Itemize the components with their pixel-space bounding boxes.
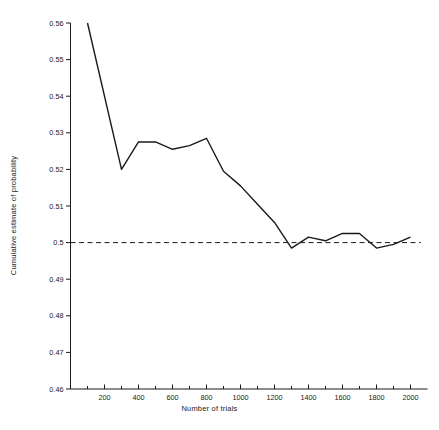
y-axis-tick-label: 0.54 (49, 92, 63, 101)
y-axis-tick-label: 0.47 (49, 348, 63, 357)
x-axis-tick-label: 400 (132, 393, 144, 402)
x-axis-label: Number of trials (181, 404, 237, 413)
x-axis-tick-label: 1800 (368, 393, 384, 402)
y-axis-tick-label: 0.56 (49, 19, 63, 28)
x-axis-tick-label: 1000 (232, 393, 248, 402)
x-axis-label-wrapper: Number of trials (0, 404, 439, 413)
data-line-series (88, 23, 411, 248)
x-axis-tick-label: 2000 (402, 393, 418, 402)
x-axis-tick-label: 1400 (300, 393, 316, 402)
y-axis-tick-label: 0.55 (49, 55, 63, 64)
y-axis-tick-label: 0.51 (49, 202, 63, 211)
y-axis-tick-label: 0.49 (49, 275, 63, 284)
x-axis-tick-label: 800 (200, 393, 212, 402)
y-axis-tick-label: 0.46 (49, 385, 63, 394)
x-axis-tick-label: 600 (166, 393, 178, 402)
x-axis-tick-label: 200 (98, 393, 110, 402)
y-axis-tick-label: 0.53 (49, 128, 63, 137)
y-axis-tick-label: 0.48 (49, 311, 63, 320)
x-axis-tick-label: 1600 (334, 393, 350, 402)
y-axis-tick-label: 0.5 (53, 238, 63, 247)
y-axis-tick-label: 0.52 (49, 165, 63, 174)
x-axis-tick-label: 1200 (266, 393, 282, 402)
chart-plot-area: 0.460.470.480.490.50.510.520.530.540.550… (0, 0, 439, 430)
chart-figure: Cumulative estimate of probability 0.460… (0, 0, 439, 430)
